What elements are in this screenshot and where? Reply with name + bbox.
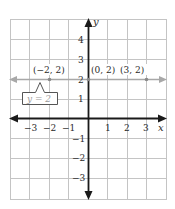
x-tick-label: 3 — [143, 123, 149, 133]
y-tick-label: 3 — [78, 55, 84, 65]
x-tick-label: 2 — [124, 123, 130, 133]
y-tick-label: 1 — [78, 94, 84, 104]
y-tick-label: −3 — [72, 173, 86, 183]
callout-label: y = 2 — [26, 94, 51, 104]
x-tick-label: −1 — [62, 123, 75, 133]
y-tick-label: 2 — [78, 75, 84, 85]
y-tick-label: −1 — [72, 134, 85, 144]
equation-callout: y = 2 — [23, 83, 58, 105]
point-label-0-2: (0, 2) — [91, 65, 115, 75]
arrow-down-icon — [85, 191, 93, 200]
arrow-right-icon — [159, 76, 167, 83]
x-axis-label: x — [158, 122, 164, 133]
x-tick-label: −3 — [24, 123, 38, 133]
y-tick-label: −2 — [72, 153, 85, 163]
point-0-2 — [87, 78, 91, 82]
point-neg2-2 — [48, 78, 52, 82]
y-axis — [85, 18, 93, 200]
point-label-3-2: (3, 2) — [120, 65, 144, 75]
coordinate-plane: y x −3 −2 −1 1 2 3 4 3 2 1 −1 −2 −3 (−2,… — [0, 0, 175, 209]
y-tick-label: 4 — [78, 35, 84, 45]
point-label-neg2-2: (−2, 2) — [33, 65, 65, 75]
x-tick-label: −2 — [43, 123, 56, 133]
x-tick-labels: −3 −2 −1 1 2 3 — [24, 123, 149, 133]
point-3-2 — [145, 78, 149, 82]
y-tick-labels: 4 3 2 1 −1 −2 −3 — [72, 35, 86, 183]
x-tick-label: 1 — [105, 123, 111, 133]
y-axis-label: y — [92, 16, 99, 27]
